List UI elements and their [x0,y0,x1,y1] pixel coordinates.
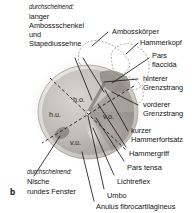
label-umbo: Umbo [107,192,127,201]
label-rundes-fenster: rundes Fenster [27,188,76,197]
label-hinterer-grenzstrang: Grenzstrang [143,84,183,93]
label-nische: Nische [27,178,49,187]
label-durchscheinend-bottom: durchscheinend: [27,168,72,177]
quadrant-label-ho: h.o. [73,95,85,104]
label-hammerkopf: Hammerkopf [140,39,182,48]
label-stapediussehne: Stapediussehne [29,40,81,49]
label-anulus-fibrocartilagineus: Anulus fibrocartilagineus [96,203,175,212]
label-lichtreflex: Lichtreflex [117,178,150,187]
label-vorderer-grenzstrang: Grenzstrang [143,110,183,119]
quadrant-label-vo: v.o. [103,112,114,121]
label-durchscheinend-top: durchscheinend: [29,3,74,12]
label-hammergriff: Hammergriff [129,150,169,159]
label-pars-flaccida-line2: flaccida [152,61,177,70]
label-ambosskoerper: Ambosskörper [112,28,159,37]
quadrant-label-hu: h.u. [49,110,61,119]
quadrant-label-vu: v.u. [70,138,81,147]
label-pars-tensa: Pars tensa [127,164,162,173]
figure-letter-b: b [10,187,15,197]
label-hammerfortsatz: Hammerfortsatz [131,136,183,145]
anatomical-figure-tympanic-membrane: durchscheinend: langer Ambossschenkel un… [0,0,192,213]
